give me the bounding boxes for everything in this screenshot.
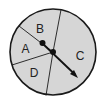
spinner-svg: B A D C <box>0 0 104 103</box>
section-label-d: D <box>30 66 39 80</box>
pointer-tail-dot <box>40 40 46 46</box>
section-label-c: C <box>76 49 85 63</box>
spinner-pivot <box>50 49 56 55</box>
section-label-b: B <box>36 22 44 36</box>
section-label-a: A <box>21 42 29 56</box>
spinner-diagram: B A D C <box>0 0 104 103</box>
